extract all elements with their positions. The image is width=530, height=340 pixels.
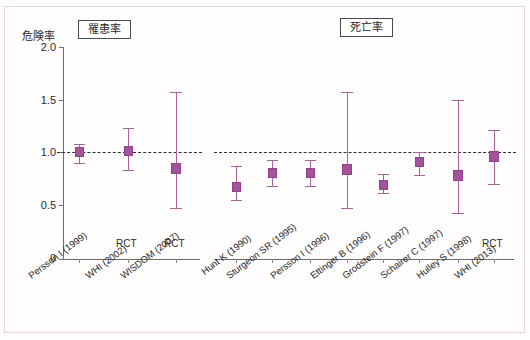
error-bar-cap-top bbox=[488, 130, 500, 131]
data-point bbox=[415, 157, 424, 167]
error-bar-cap-bottom bbox=[231, 200, 242, 201]
x-tick-mark bbox=[494, 259, 495, 263]
series-mortality: RCT Hunt K (1990) Sturgeon SR (1995) Per… bbox=[0, 0, 530, 340]
error-bar-cap-top bbox=[378, 174, 389, 175]
error-bar-cap-bottom bbox=[305, 186, 316, 187]
x-tick-mark bbox=[310, 259, 311, 263]
data-point bbox=[232, 182, 241, 192]
error-bar-cap-bottom bbox=[378, 193, 389, 194]
data-point bbox=[306, 168, 315, 178]
data-point bbox=[268, 168, 277, 178]
error-bar-cap-bottom bbox=[488, 184, 500, 185]
x-tick-mark bbox=[272, 259, 273, 263]
error-bar-cap-bottom bbox=[267, 186, 278, 187]
error-bar bbox=[347, 92, 348, 208]
error-bar-cap-bottom bbox=[414, 175, 425, 176]
x-tick-mark bbox=[383, 259, 384, 263]
error-bar-cap-top bbox=[267, 160, 278, 161]
data-point bbox=[379, 180, 388, 190]
error-bar-cap-top bbox=[414, 152, 425, 153]
error-bar-cap-bottom bbox=[341, 208, 353, 209]
data-point bbox=[342, 164, 352, 175]
data-point bbox=[489, 151, 499, 162]
error-bar bbox=[458, 100, 459, 213]
error-bar-cap-top bbox=[452, 100, 464, 101]
error-bar-cap-bottom bbox=[452, 213, 464, 214]
data-point bbox=[453, 170, 463, 181]
error-bar-cap-top bbox=[231, 166, 242, 167]
x-tick-mark bbox=[347, 259, 348, 263]
forest-plot: 危険率 罹患率 死亡率 2.0 1.5 1.0 0.5 0 bbox=[0, 0, 530, 340]
error-bar-cap-top bbox=[305, 160, 316, 161]
error-bar-cap-top bbox=[341, 92, 353, 93]
x-tick-mark bbox=[458, 259, 459, 263]
figure-container: 危険率 罹患率 死亡率 2.0 1.5 1.0 0.5 0 bbox=[0, 0, 530, 340]
x-tick-mark bbox=[419, 259, 420, 263]
